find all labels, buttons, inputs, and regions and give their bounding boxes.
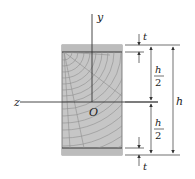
dimensions (125, 34, 180, 166)
top-t-label: t (143, 31, 148, 42)
upper-half-numerator: h (155, 64, 161, 75)
wood-beam (0, 0, 174, 162)
y-axis-label: y (96, 11, 104, 24)
lower-half-numerator: h (155, 117, 161, 128)
lower-half-denominator: 2 (155, 130, 161, 141)
bottom-cover-plate (62, 148, 122, 155)
dimension-labels: t t h 2 h 2 h (143, 31, 183, 172)
total-height-label: h (176, 95, 183, 108)
bottom-t-label: t (143, 161, 148, 172)
origin-label: O (89, 106, 98, 119)
z-axis-label: z (13, 96, 20, 109)
upper-half-denominator: 2 (155, 77, 161, 88)
beam-cross-section-diagram: y z O t t h 2 h 2 h (0, 0, 195, 179)
